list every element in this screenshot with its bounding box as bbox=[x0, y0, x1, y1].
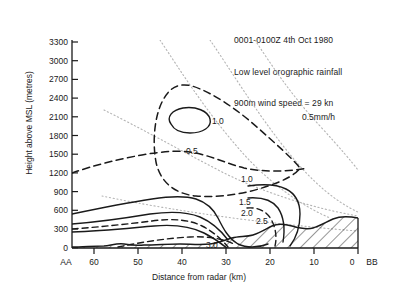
contour-label: 1.5 bbox=[239, 197, 251, 207]
contour-label: 0.5 bbox=[186, 146, 198, 156]
trajectory-5 bbox=[255, 40, 358, 170]
x-tick-label: 40 bbox=[177, 257, 187, 267]
y-tick-label: 1500 bbox=[49, 149, 68, 159]
contour-0p5-upper bbox=[154, 85, 300, 196]
y-tick-label: 3300 bbox=[49, 37, 68, 47]
y-tick-label: 0 bbox=[63, 243, 68, 253]
x-tick-label: 30 bbox=[221, 257, 231, 267]
contour-label: 2.0 bbox=[241, 208, 253, 218]
left-endpoint-label: AA bbox=[60, 257, 72, 267]
x-tick-label: 0 bbox=[350, 257, 355, 267]
right-endpoint-label: BB bbox=[366, 257, 378, 267]
contour-label: 1.0 bbox=[241, 174, 253, 184]
x-tick-label: 20 bbox=[265, 257, 275, 267]
y-tick-label: 600 bbox=[54, 205, 68, 215]
y-tick-label: 300 bbox=[54, 224, 68, 234]
rainfall-contours bbox=[72, 85, 308, 249]
plot-area: 3300 3000 2700 2400 2100 1800 1500 1200 … bbox=[0, 0, 398, 294]
contour-label: 1.0 bbox=[212, 116, 224, 126]
y-tick-label: 2700 bbox=[49, 74, 68, 84]
trajectory-2 bbox=[210, 40, 358, 212]
y-tick-label: 900 bbox=[54, 187, 68, 197]
airflow-trajectories bbox=[102, 40, 358, 231]
y-tick-label: 1200 bbox=[49, 168, 68, 178]
trajectory-1 bbox=[160, 40, 330, 218]
y-axis-ticks bbox=[72, 42, 78, 248]
contour-label: 2.5 bbox=[256, 216, 268, 226]
orographic-rainfall-figure: 0001-0100Z 4th Oct 1980 Low level orogra… bbox=[0, 0, 398, 294]
y-tick-label: 2100 bbox=[49, 112, 68, 122]
contour-label: 0.5mm/h bbox=[302, 112, 335, 122]
contour-label: 3.0 bbox=[206, 240, 218, 250]
x-axis-ticks bbox=[94, 248, 358, 254]
x-tick-label: 10 bbox=[309, 257, 319, 267]
contour-1p0-cell bbox=[169, 108, 210, 133]
x-tick-label: 50 bbox=[133, 257, 143, 267]
x-tick-label: 60 bbox=[89, 257, 99, 267]
axis-lines bbox=[72, 40, 358, 248]
y-tick-label: 1800 bbox=[49, 131, 68, 141]
y-tick-label: 2400 bbox=[49, 93, 68, 103]
y-tick-label: 3000 bbox=[49, 56, 68, 66]
